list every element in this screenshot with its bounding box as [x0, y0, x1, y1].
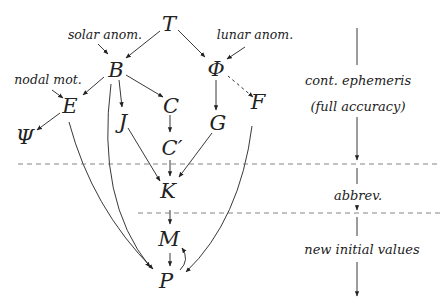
- computation-flow-diagram: T B Φ E C J G F Ψ C′ K M P solar anom. l…: [0, 0, 441, 308]
- node-F: F: [251, 92, 266, 113]
- node-B: B: [108, 60, 123, 81]
- edge-J-K: [128, 128, 160, 181]
- node-J: J: [119, 112, 127, 133]
- edge-G-K: [179, 133, 212, 177]
- node-Phi: Φ: [207, 59, 224, 80]
- edge-solar-B: [98, 44, 108, 54]
- node-K: K: [160, 181, 176, 202]
- node-M: M: [158, 229, 180, 250]
- edge-lunar-Phi: [227, 47, 245, 59]
- node-C-prime: C′: [162, 138, 183, 159]
- node-P: P: [159, 271, 173, 292]
- node-C: C: [163, 96, 179, 117]
- phase-label-full-accuracy: (full accuracy): [310, 100, 405, 113]
- node-G: G: [210, 113, 227, 134]
- diagram-edges: [0, 0, 441, 308]
- edge-B-P: [108, 84, 150, 267]
- label-nodal-mot: nodal mot.: [14, 74, 81, 87]
- node-T: T: [162, 14, 176, 35]
- edge-B-C: [126, 75, 163, 97]
- edge-P-M: [180, 248, 186, 270]
- edge-E-Psi: [37, 113, 60, 130]
- edge-F-Phi: [228, 76, 253, 97]
- node-Psi: Ψ: [16, 127, 34, 148]
- phase-label-abbrev: abbrev.: [334, 189, 382, 202]
- phase-label-new-initial-values: new initial values: [304, 243, 419, 256]
- label-solar-anom: solar anom.: [68, 29, 142, 42]
- label-lunar-anom: lunar anom.: [217, 29, 293, 42]
- edge-B-E: [83, 77, 104, 95]
- edge-E-P: [69, 122, 153, 269]
- phase-label-cont-ephemeris: cont. ephemeris: [305, 74, 411, 87]
- edge-T-Phi: [178, 30, 205, 57]
- edge-F-P: [186, 126, 252, 272]
- node-E: E: [62, 96, 77, 117]
- edge-B-J: [119, 80, 122, 107]
